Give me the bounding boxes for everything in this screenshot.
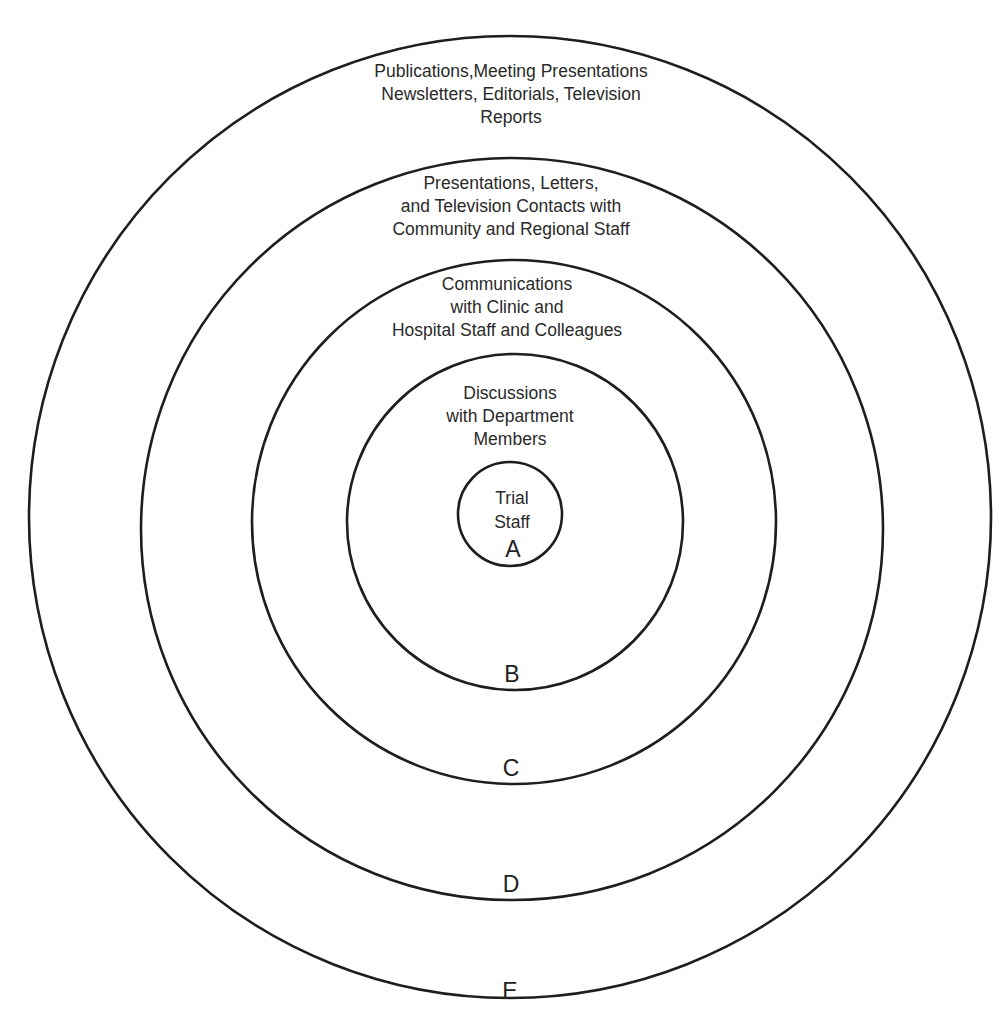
ring-a-line-1: Trial [494, 486, 530, 510]
ring-d-line-1: Presentations, Letters, [392, 172, 629, 195]
ring-b-letter: B [504, 663, 519, 686]
ring-d-letter: D [503, 873, 520, 896]
ring-e-label: Publications,Meeting Presentations Newsl… [374, 60, 647, 129]
ring-c-line-2: with Clinic and [392, 296, 622, 319]
ring-e-letter: E [502, 980, 517, 1003]
ring-e-line-1: Publications,Meeting Presentations [374, 60, 647, 83]
ring-e-line-3: Reports [374, 106, 647, 129]
ring-c-line-3: Hospital Staff and Colleagues [392, 319, 622, 342]
ring-a-label: Trial Staff [494, 486, 530, 534]
ring-c-letter: C [503, 757, 520, 780]
ring-a-letter: A [505, 538, 520, 561]
ring-b-line-3: Members [446, 428, 573, 451]
ring-b-label: Discussions with Department Members [446, 382, 573, 451]
ring-c-label: Communications with Clinic and Hospital … [392, 273, 622, 342]
ring-d-label: Presentations, Letters, and Television C… [392, 172, 629, 241]
ring-c-line-1: Communications [392, 273, 622, 296]
ring-e-line-2: Newsletters, Editorials, Television [374, 83, 647, 106]
ring-d-line-3: Community and Regional Staff [392, 218, 629, 241]
ring-b-line-1: Discussions [446, 382, 573, 405]
ring-d-line-2: and Television Contacts with [392, 195, 629, 218]
ring-b-line-2: with Department [446, 405, 573, 428]
ring-a-line-2: Staff [494, 510, 530, 534]
